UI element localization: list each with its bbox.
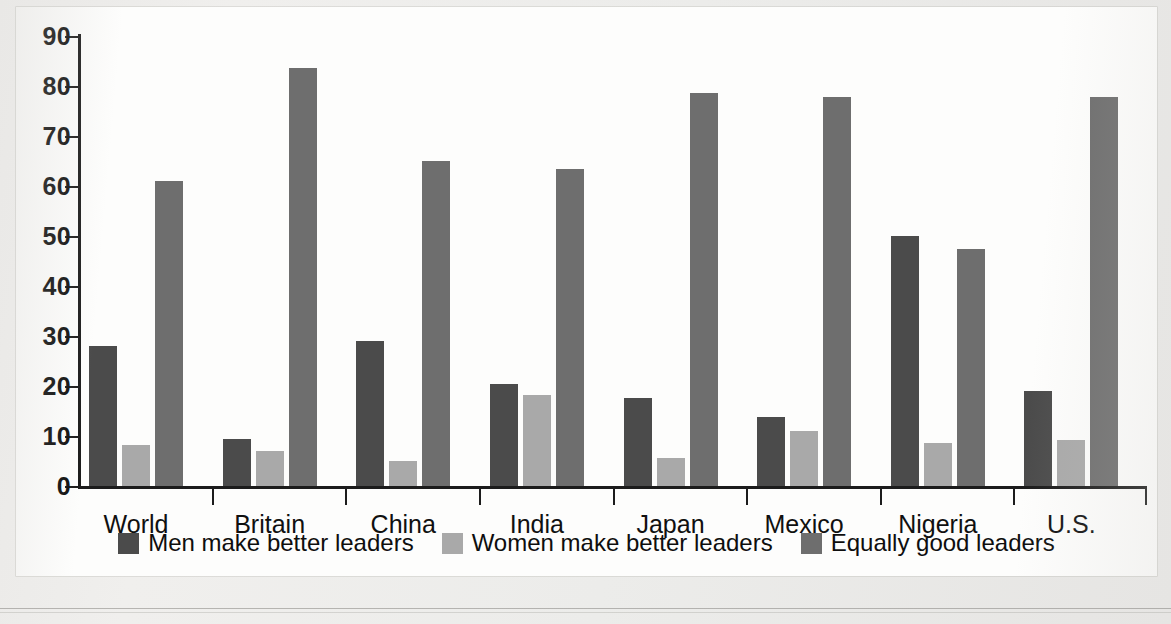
bar bbox=[823, 97, 851, 486]
legend-swatch-icon bbox=[801, 533, 822, 554]
legend-item: Men make better leaders bbox=[118, 529, 413, 557]
y-tick-label: 80 bbox=[43, 72, 71, 101]
bar bbox=[289, 68, 317, 487]
bar bbox=[1057, 440, 1085, 486]
x-group-separator bbox=[746, 488, 748, 505]
bar bbox=[556, 169, 584, 486]
bar bbox=[790, 431, 818, 486]
y-axis-line bbox=[78, 34, 81, 486]
bar bbox=[523, 395, 551, 486]
y-tick-label: 0 bbox=[57, 472, 71, 501]
x-group-separator bbox=[212, 488, 214, 505]
bar bbox=[356, 341, 384, 486]
x-group-separator bbox=[613, 488, 615, 505]
bar bbox=[122, 445, 150, 487]
bar bbox=[757, 417, 785, 487]
bar bbox=[690, 93, 718, 486]
bar bbox=[1090, 97, 1118, 486]
y-tick-label: 40 bbox=[43, 272, 71, 301]
bar bbox=[490, 384, 518, 486]
bar bbox=[422, 161, 450, 486]
bar bbox=[624, 398, 652, 486]
legend-swatch-icon bbox=[442, 533, 463, 554]
legend-item: Women make better leaders bbox=[442, 529, 773, 557]
legend-item: Equally good leaders bbox=[801, 529, 1055, 557]
bar bbox=[891, 236, 919, 486]
x-group-separator bbox=[880, 488, 882, 505]
plot-area: 0102030405060708090 WorldBritainChinaInd… bbox=[78, 36, 1147, 486]
x-group-separator bbox=[1145, 488, 1147, 505]
y-tick-label: 30 bbox=[43, 322, 71, 351]
chart-figure-panel: 0102030405060708090 WorldBritainChinaInd… bbox=[16, 7, 1157, 576]
legend-label: Women make better leaders bbox=[472, 529, 773, 557]
y-tick-label: 70 bbox=[43, 122, 71, 151]
bar bbox=[256, 451, 284, 486]
bar bbox=[155, 181, 183, 486]
bar bbox=[223, 439, 251, 487]
page-rule-line bbox=[0, 612, 1171, 613]
bar bbox=[89, 346, 117, 486]
x-group-separator bbox=[479, 488, 481, 505]
bar bbox=[957, 249, 985, 486]
y-tick-label: 60 bbox=[43, 172, 71, 201]
bar bbox=[657, 458, 685, 487]
y-tick-label: 50 bbox=[43, 222, 71, 251]
y-tick-label: 20 bbox=[43, 372, 71, 401]
bar bbox=[389, 461, 417, 486]
legend-label: Men make better leaders bbox=[148, 529, 413, 557]
y-tick-label: 10 bbox=[43, 422, 71, 451]
chart-legend: Men make better leadersWomen make better… bbox=[16, 529, 1157, 557]
bar bbox=[924, 443, 952, 487]
x-group-separator bbox=[345, 488, 347, 505]
bar bbox=[1024, 391, 1052, 486]
legend-label: Equally good leaders bbox=[831, 529, 1055, 557]
page-rule-line bbox=[0, 608, 1171, 609]
legend-swatch-icon bbox=[118, 533, 139, 554]
x-group-separator bbox=[1013, 488, 1015, 505]
y-tick-label: 90 bbox=[43, 22, 71, 51]
